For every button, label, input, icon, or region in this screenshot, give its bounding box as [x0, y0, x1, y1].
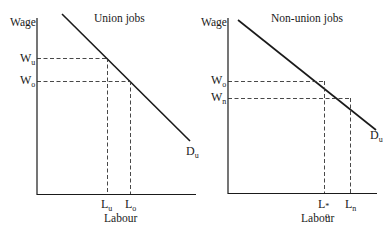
nonunion-panel-title: Non-union jobs: [271, 13, 343, 25]
labour-market-diagram: Wage Union jobs Wu Wo Lu Lo Labour Du Wa…: [0, 0, 389, 235]
lo-star-superscript: *: [325, 203, 329, 211]
lo-star-symbol: L: [318, 197, 325, 211]
nonunion-wo-label: Wo: [211, 74, 226, 89]
union-jobs-panel-lines: [37, 14, 196, 195]
wo-subscript: o: [31, 80, 35, 89]
wu-symbol: W: [20, 51, 31, 65]
union-panel-title: Union jobs: [94, 13, 145, 25]
du-subscript: u: [195, 151, 199, 160]
union-wu-label: Wu: [20, 52, 35, 67]
union-y-axis-label: Wage: [10, 17, 36, 29]
nonunion-demand-label: Du: [370, 129, 383, 144]
wn-symbol: W: [211, 90, 222, 104]
wn-subscript: n: [222, 97, 226, 106]
wo-subscript: o: [222, 80, 226, 89]
union-lo-label: Lo: [125, 198, 136, 213]
nonunion-demand-curve: [238, 20, 376, 130]
union-demand-curve: [62, 14, 190, 141]
du-symbol: D: [186, 144, 195, 158]
union-x-axis-label: Labour: [104, 213, 137, 225]
du-subscript: u: [379, 135, 383, 144]
union-demand-label: Du: [186, 145, 199, 160]
wo-symbol: W: [20, 73, 31, 87]
union-lu-label: Lu: [101, 198, 112, 213]
nonunion-ln-label: Ln: [345, 198, 356, 213]
nonunion-x-axis-label: Labour: [301, 213, 334, 225]
non-union-jobs-panel-lines: [228, 18, 377, 194]
nonunion-y-axis-label: Wage: [201, 17, 227, 29]
nonunion-lo-star-label: L*o: [318, 198, 331, 210]
wu-subscript: u: [31, 58, 35, 67]
ln-subscript: n: [352, 204, 356, 213]
union-wo-label: Wo: [20, 74, 35, 89]
wo-symbol: W: [211, 73, 222, 87]
du-symbol: D: [370, 128, 379, 142]
nonunion-wn-label: Wn: [211, 91, 226, 106]
